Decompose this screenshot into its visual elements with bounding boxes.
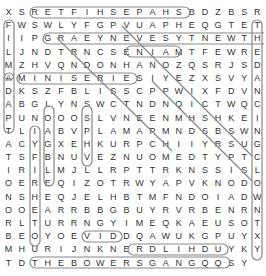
- letter-cell[interactable]: U: [28, 243, 41, 256]
- letter-cell[interactable]: N: [81, 217, 94, 230]
- letter-cell[interactable]: E: [81, 72, 94, 85]
- letter-cell[interactable]: A: [2, 98, 15, 111]
- letter-cell[interactable]: T: [133, 191, 146, 204]
- letter-cell[interactable]: E: [81, 191, 94, 204]
- letter-cell[interactable]: W: [159, 230, 172, 243]
- letter-cell[interactable]: A: [67, 32, 80, 45]
- letter-cell[interactable]: A: [159, 46, 172, 59]
- letter-cell[interactable]: B: [212, 125, 225, 138]
- letter-cell[interactable]: P: [133, 138, 146, 151]
- letter-cell[interactable]: X: [251, 230, 264, 243]
- letter-cell[interactable]: R: [67, 46, 80, 59]
- letter-cell[interactable]: R: [212, 138, 225, 151]
- letter-cell[interactable]: A: [146, 230, 159, 243]
- letter-cell[interactable]: H: [94, 6, 107, 19]
- letter-cell[interactable]: E: [212, 46, 225, 59]
- letter-cell[interactable]: H: [120, 59, 133, 72]
- letter-cell[interactable]: S: [238, 59, 251, 72]
- letter-cell[interactable]: U: [107, 138, 120, 151]
- letter-cell[interactable]: P: [212, 230, 225, 243]
- letter-cell[interactable]: B: [120, 191, 133, 204]
- letter-cell[interactable]: V: [133, 32, 146, 45]
- letter-cell[interactable]: S: [212, 72, 225, 85]
- letter-cell[interactable]: B: [15, 98, 28, 111]
- letter-cell[interactable]: E: [28, 204, 41, 217]
- letter-cell[interactable]: N: [146, 59, 159, 72]
- letter-cell[interactable]: B: [94, 204, 107, 217]
- letter-cell[interactable]: R: [120, 177, 133, 190]
- letter-cell[interactable]: S: [107, 6, 120, 19]
- letter-cell[interactable]: U: [172, 230, 185, 243]
- letter-cell[interactable]: N: [28, 46, 41, 59]
- letter-cell[interactable]: Y: [212, 151, 225, 164]
- letter-cell[interactable]: E: [107, 257, 120, 270]
- letter-cell[interactable]: E: [81, 32, 94, 45]
- letter-cell[interactable]: T: [28, 257, 41, 270]
- letter-cell[interactable]: H: [81, 138, 94, 151]
- letter-cell[interactable]: C: [251, 151, 264, 164]
- letter-cell[interactable]: T: [2, 257, 15, 270]
- letter-cell[interactable]: T: [2, 151, 15, 164]
- letter-cell[interactable]: R: [54, 32, 67, 45]
- letter-cell[interactable]: R: [159, 204, 172, 217]
- letter-cell[interactable]: E: [172, 72, 185, 85]
- letter-cell[interactable]: R: [67, 204, 80, 217]
- letter-cell[interactable]: E: [120, 32, 133, 45]
- letter-cell[interactable]: E: [212, 32, 225, 45]
- letter-cell[interactable]: O: [94, 177, 107, 190]
- letter-cell[interactable]: T: [185, 46, 198, 59]
- letter-cell[interactable]: S: [198, 112, 211, 125]
- letter-cell[interactable]: T: [212, 98, 225, 111]
- letter-cell[interactable]: S: [15, 6, 28, 19]
- letter-cell[interactable]: S: [81, 112, 94, 125]
- letter-cell[interactable]: M: [2, 59, 15, 72]
- letter-cell[interactable]: J: [67, 243, 80, 256]
- letter-cell[interactable]: O: [41, 112, 54, 125]
- letter-cell[interactable]: H: [251, 32, 264, 45]
- letter-cell[interactable]: C: [15, 138, 28, 151]
- letter-cell[interactable]: A: [133, 59, 146, 72]
- letter-cell[interactable]: P: [146, 85, 159, 98]
- letter-cell[interactable]: W: [94, 257, 107, 270]
- letter-cell[interactable]: T: [251, 217, 264, 230]
- letter-cell[interactable]: N: [67, 98, 80, 111]
- letter-cell[interactable]: O: [238, 217, 251, 230]
- letter-cell[interactable]: S: [238, 6, 251, 19]
- letter-cell[interactable]: H: [185, 243, 198, 256]
- letter-cell[interactable]: P: [107, 19, 120, 32]
- letter-cell[interactable]: R: [212, 59, 225, 72]
- letter-cell[interactable]: Y: [198, 138, 211, 151]
- letter-cell[interactable]: F: [2, 19, 15, 32]
- letter-cell[interactable]: C: [94, 46, 107, 59]
- letter-cell[interactable]: V: [107, 112, 120, 125]
- letter-cell[interactable]: R: [54, 217, 67, 230]
- letter-cell[interactable]: Z: [15, 59, 28, 72]
- letter-cell[interactable]: N: [120, 151, 133, 164]
- letter-cell[interactable]: O: [28, 230, 41, 243]
- letter-cell[interactable]: O: [2, 204, 15, 217]
- letter-cell[interactable]: C: [251, 98, 264, 111]
- letter-cell[interactable]: G: [185, 257, 198, 270]
- letter-cell[interactable]: I: [251, 112, 264, 125]
- letter-cell[interactable]: N: [185, 164, 198, 177]
- letter-cell[interactable]: K: [238, 243, 251, 256]
- letter-cell[interactable]: D: [185, 191, 198, 204]
- letter-cell[interactable]: P: [28, 32, 41, 45]
- letter-cell[interactable]: Y: [225, 243, 238, 256]
- letter-cell[interactable]: V: [81, 230, 94, 243]
- letter-cell[interactable]: E: [133, 112, 146, 125]
- letter-cell[interactable]: Q: [198, 257, 211, 270]
- letter-cell[interactable]: I: [185, 98, 198, 111]
- letter-cell[interactable]: N: [212, 177, 225, 190]
- letter-cell[interactable]: L: [94, 164, 107, 177]
- letter-cell[interactable]: B: [41, 151, 54, 164]
- letter-cell[interactable]: T: [120, 98, 133, 111]
- letter-cell[interactable]: P: [2, 112, 15, 125]
- letter-cell[interactable]: E: [41, 177, 54, 190]
- letter-cell[interactable]: M: [159, 125, 172, 138]
- letter-cell[interactable]: I: [107, 72, 120, 85]
- letter-cell[interactable]: G: [94, 19, 107, 32]
- letter-cell[interactable]: D: [238, 191, 251, 204]
- letter-cell[interactable]: K: [172, 217, 185, 230]
- letter-cell[interactable]: N: [159, 98, 172, 111]
